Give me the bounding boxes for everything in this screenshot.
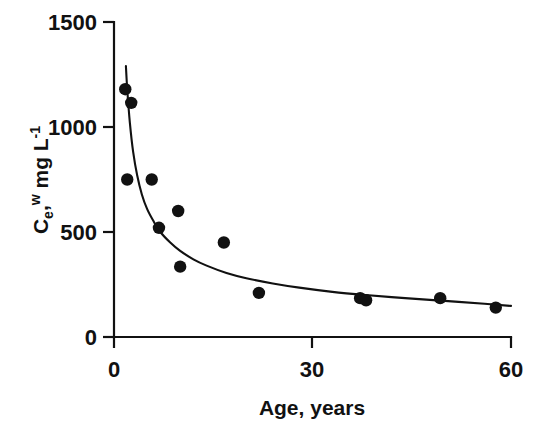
data-point [153,222,165,234]
y-axis-title: Ce,w mg L-1 [27,126,56,234]
data-point [146,173,158,185]
y-ticklabel-0: 0 [85,325,97,350]
y-ticklabel-1500: 1500 [48,10,97,35]
data-point [119,83,131,95]
y-title-base2: mg L [29,138,52,194]
x-ticklabel-0: 0 [108,357,120,382]
y-ticklabel-1000: 1000 [48,115,97,140]
data-point [360,294,372,306]
data-point [174,260,186,272]
y-ticklabel-500: 500 [60,220,97,245]
x-axis-title: Age, years [259,396,365,419]
y-title-sup-exp: -1 [27,126,43,139]
scatter-plot-svg: 1500 1000 500 0 0 30 60 Age, years Ce,w … [0,0,553,433]
data-point [218,236,230,248]
svg-text:Ce,w mg L-1: Ce,w mg L-1 [27,126,56,234]
y-title-sup-w: w [27,194,43,206]
chart-figure: 1500 1000 500 0 0 30 60 Age, years Ce,w … [0,0,553,433]
y-title-sub-e: e [40,211,56,219]
x-ticklabel-30: 30 [300,357,324,382]
data-point [490,301,502,313]
data-point [172,205,184,217]
data-points-layer [119,83,502,314]
x-ticklabel-60: 60 [499,357,523,382]
data-point [125,97,137,109]
data-point [253,287,265,299]
data-point [434,292,446,304]
y-title-base1: C [29,219,52,234]
data-point [121,173,133,185]
